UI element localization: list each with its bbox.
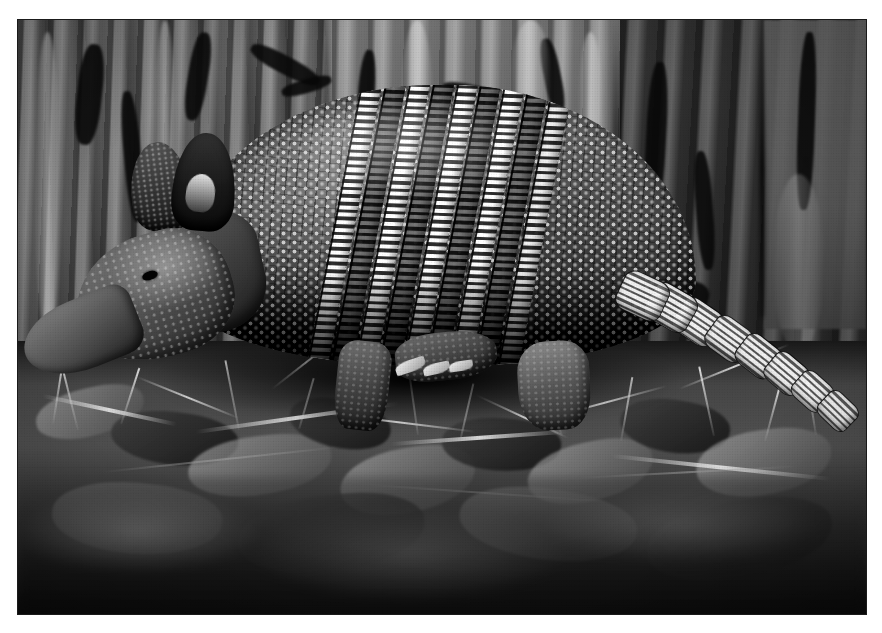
armadillo-carapace <box>179 85 696 364</box>
photo-frame <box>17 19 867 615</box>
photograph-armadillo <box>18 20 866 614</box>
carapace-highlight <box>303 102 541 203</box>
leg-scale-texture <box>516 339 593 432</box>
leg-scale-texture <box>331 338 393 432</box>
armadillo-front-leg <box>331 338 393 432</box>
foreground-blur <box>18 477 866 614</box>
armadillo-snout <box>18 280 150 391</box>
armadillo-rear-leg <box>516 339 593 432</box>
